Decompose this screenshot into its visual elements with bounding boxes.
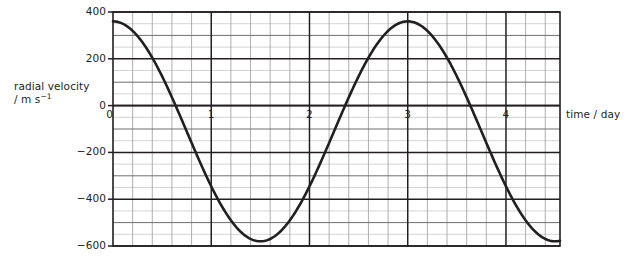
- y-tick-label: −600: [64, 239, 106, 251]
- y-axis-label-line1: radial velocity: [14, 80, 90, 92]
- y-tick-label: 200: [64, 52, 106, 64]
- x-tick-label: 1: [203, 108, 219, 120]
- y-axis-label-exponent: −1: [40, 92, 51, 101]
- x-tick-label: 3: [400, 108, 416, 120]
- x-tick-label: 0: [97, 108, 113, 120]
- radial-velocity-chart: radial velocity / m s−1 time / day 40020…: [0, 0, 640, 256]
- x-tick-label: 4: [498, 108, 514, 120]
- chart-plot-area: [0, 0, 640, 256]
- x-axis-label: time / day: [566, 108, 620, 120]
- y-tick-label: −400: [64, 192, 106, 204]
- x-tick-label: 2: [301, 108, 317, 120]
- y-tick-label: 400: [64, 5, 106, 17]
- y-axis-label-line2: / m s: [14, 93, 40, 105]
- mid-gridlines: [113, 35, 560, 222]
- radial-velocity-curve: [113, 21, 560, 241]
- y-tick-label: −200: [64, 145, 106, 157]
